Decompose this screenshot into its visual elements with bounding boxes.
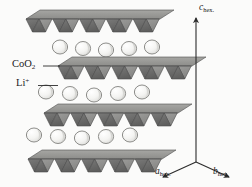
axis-triad (163, 18, 229, 177)
label-axis-c-subscript: hex. (203, 6, 214, 13)
label-coo2: CoO2 (12, 59, 35, 71)
label-lithium-superscript: + (25, 77, 29, 85)
li-ion-layer (26, 128, 137, 145)
label-coo2-subscript: 2 (32, 63, 36, 71)
coo2-slab (44, 104, 192, 126)
structure-canvas (0, 0, 252, 187)
label-lithium: Li+ (16, 78, 29, 89)
coo2-slab (26, 10, 174, 32)
label-lithium-base: Li (16, 77, 25, 88)
label-axis-a: ahex. (155, 167, 171, 177)
coo2-slab (58, 57, 206, 79)
leader-lines (38, 66, 60, 86)
label-axis-c: chex. (199, 3, 214, 13)
label-axis-b-subscript: hex. (218, 170, 229, 177)
crystal-structure-figure: CoO2 Li+ chex. ahex. bhex. (0, 0, 252, 187)
coo2-slab (28, 150, 176, 172)
li-ion-layer (52, 40, 159, 57)
label-axis-b: bhex. (213, 167, 229, 177)
li-ion-layer (38, 85, 149, 102)
label-coo2-base: CoO (12, 58, 32, 69)
label-axis-a-subscript: hex. (160, 170, 171, 177)
layer-stack (26, 10, 206, 172)
